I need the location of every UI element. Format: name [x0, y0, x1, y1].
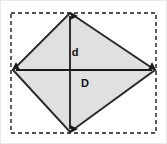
major-diagonal-label: D	[81, 77, 89, 89]
figure-root: d D	[0, 0, 167, 144]
rhombus-shape	[13, 13, 155, 132]
rhombus-diagonals-figure: d D	[0, 0, 167, 144]
minor-diagonal-label: d	[72, 46, 79, 58]
